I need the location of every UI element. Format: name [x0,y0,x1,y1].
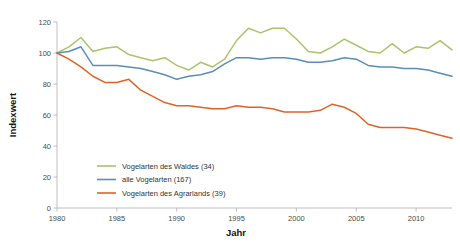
chart-legend: Vogelarten des Waldes (34)alle Vogelarte… [97,162,226,198]
y-axis-title: Indexwert [7,92,18,137]
x-axis-title: Jahr [226,227,246,238]
line-chart: 020406080100120 198019851990199520002005… [0,0,460,242]
legend-label-3: Vogelarten des Agrarlands (39) [122,189,226,198]
chart-canvas: 020406080100120 198019851990199520002005… [0,0,460,242]
x-tick-label: 1995 [228,214,245,223]
axes [57,22,452,208]
series-line-1 [57,28,452,70]
x-tick-group: 1980198519901995200020052010 [49,208,425,223]
y-tick-label: 0 [47,204,51,213]
y-tick-label: 100 [38,49,51,58]
series-group [57,28,452,138]
y-tick-label: 120 [38,18,51,27]
x-tick-label: 1980 [49,214,66,223]
x-tick-label: 2005 [348,214,365,223]
x-tick-label: 1990 [168,214,185,223]
y-tick-group: 020406080100120 [38,18,57,213]
y-tick-label: 80 [43,80,51,89]
y-tick-label: 60 [43,111,51,120]
series-line-2 [57,47,452,80]
x-tick-label: 2010 [408,214,425,223]
y-tick-label: 40 [43,142,51,151]
legend-label-1: Vogelarten des Waldes (34) [122,162,215,171]
x-tick-label: 2000 [288,214,305,223]
legend-label-2: alle Vogelarten (167) [122,175,192,184]
y-tick-label: 20 [43,173,51,182]
x-tick-label: 1985 [109,214,126,223]
